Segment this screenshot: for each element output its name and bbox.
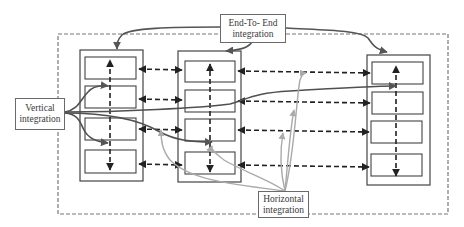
horizontal-integration-label: Horizontal integration	[258, 191, 309, 218]
end-to-end-integration-label: End-To- End integration	[220, 14, 286, 43]
column-3	[367, 55, 430, 185]
column-3-layer-2	[372, 92, 423, 114]
column-3-layer-1	[372, 62, 423, 84]
horizontal-links-col1-col2	[139, 69, 182, 165]
column-2	[178, 51, 241, 182]
vertical-integration-label: Vertical integration	[15, 98, 65, 130]
horizontal-links-col2-col3	[238, 71, 370, 167]
column-2-layer-2	[185, 90, 235, 112]
column-1-layer-1	[85, 57, 136, 79]
